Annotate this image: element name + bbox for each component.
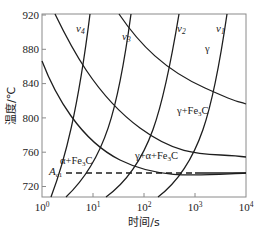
- x-tick-label: 104: [239, 200, 254, 213]
- label-v3: v3: [122, 30, 131, 44]
- diagram-svg: 920 880 840 800 760 720 温度/℃ 100 101 102…: [0, 0, 261, 233]
- y-tick-label: 880: [23, 43, 40, 55]
- curve-v4: [51, 14, 90, 197]
- label-v2: v2: [177, 22, 186, 36]
- region-gamma-alpha-fe3c: γ+α+Fe3C: [134, 150, 178, 163]
- label-v4: v4: [76, 22, 85, 36]
- x-axis: 100 101 102 103 104 时间/s: [35, 193, 254, 229]
- y-tick-label: 760: [23, 146, 40, 158]
- y-tick-label: 920: [23, 9, 40, 21]
- y-tick-label: 720: [23, 180, 40, 192]
- region-gamma-fe3c: γ+Fe3C: [176, 105, 209, 118]
- label-v1: v1: [216, 22, 225, 36]
- x-tick-label: 103: [188, 200, 203, 213]
- x-tick-label: 100: [35, 200, 50, 213]
- phase-diagram: 920 880 840 800 760 720 温度/℃ 100 101 102…: [0, 0, 261, 233]
- y-tick-label: 800: [23, 112, 40, 124]
- x-tick-label: 102: [137, 200, 152, 213]
- curve-v2: [106, 14, 179, 197]
- y-axis: 920 880 840 800 760 720 温度/℃: [4, 9, 46, 192]
- x-axis-title: 时间/s: [128, 216, 160, 229]
- x-tick-label: 101: [86, 200, 101, 213]
- region-alpha-fe3c: α+Fe3C: [60, 155, 92, 168]
- y-tick-label: 840: [23, 77, 40, 89]
- region-gamma: γ: [204, 43, 210, 54]
- y-axis-title: 温度/℃: [4, 87, 18, 125]
